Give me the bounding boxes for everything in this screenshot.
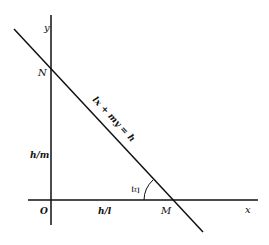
point-m-label: M bbox=[160, 205, 172, 216]
angle-arc bbox=[144, 180, 153, 200]
diagram-canvas: y N h/m O h/l M x Ξ lx + my = h bbox=[0, 0, 269, 245]
origin-label: O bbox=[40, 206, 48, 216]
point-n-label: N bbox=[37, 67, 48, 78]
segment-h-m-label: h/m bbox=[30, 150, 49, 160]
y-axis-label: y bbox=[43, 22, 50, 33]
angle-label: Ξ bbox=[131, 186, 141, 194]
x-axis-label: x bbox=[245, 204, 251, 215]
line-lx-my-h bbox=[14, 29, 203, 232]
segment-h-l-label: h/l bbox=[98, 206, 112, 216]
